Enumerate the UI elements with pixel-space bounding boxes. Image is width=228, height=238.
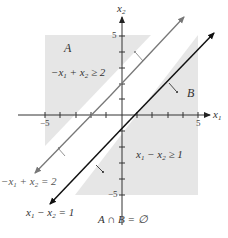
line-a-equation: −x1 + x2 = 2	[1, 175, 57, 189]
caption-intersection-empty: A ∩ B = ∅	[98, 213, 148, 226]
y-tick-pos5: 5	[112, 30, 117, 40]
line-b-equation: x1 − x2 = 1	[26, 206, 74, 220]
region-b-inequality: x1 − x2 ≥ 1	[136, 148, 183, 162]
x-tick-neg5: −5	[40, 118, 50, 128]
region-b-label: B	[187, 86, 194, 101]
region-a-inequality: −x1 + x2 ≥ 2	[51, 66, 105, 80]
region-a-label: A	[64, 41, 71, 56]
x-tick-pos5: 5	[196, 118, 201, 128]
y-axis-label: x2	[117, 2, 125, 16]
x-axis-label: x1	[213, 108, 221, 122]
y-tick-neg5: −5	[108, 189, 118, 199]
